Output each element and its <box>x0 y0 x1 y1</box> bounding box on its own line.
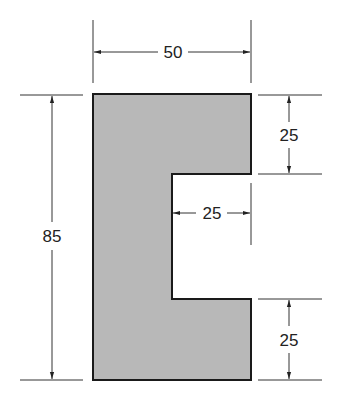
dimension-label: 25 <box>280 331 299 350</box>
dimension-top-flange: 25 <box>280 96 299 173</box>
dimension-notch-depth: 25 <box>173 204 250 223</box>
dimension-overall-height: 85 <box>43 96 62 379</box>
dimension-label: 50 <box>164 43 183 62</box>
dimension-label: 85 <box>43 227 62 246</box>
dimension-label: 25 <box>280 126 299 145</box>
c-section-shape <box>93 94 251 380</box>
dimension-bottom-flange: 25 <box>280 300 299 379</box>
c-section-drawing: 50 85 25 25 25 <box>0 0 337 409</box>
dimension-overall-width: 50 <box>94 43 250 62</box>
dimension-label: 25 <box>203 204 222 223</box>
